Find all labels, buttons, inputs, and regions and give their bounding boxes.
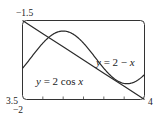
corner-label-top-left: −1.5 xyxy=(16,9,33,19)
label-eq: = 2 − xyxy=(101,56,130,68)
label-y-equals-2-minus-x: y = 2 − x xyxy=(96,57,135,68)
x-max-label: 4 xyxy=(148,98,153,108)
x-min-label: −2 xyxy=(13,106,23,116)
label-tail: x xyxy=(78,75,83,87)
label-y-equals-2cos-x: y = 2 cos x xyxy=(36,76,83,87)
label-eq: = 2 cos xyxy=(41,75,78,87)
label-tail: x xyxy=(130,56,135,68)
